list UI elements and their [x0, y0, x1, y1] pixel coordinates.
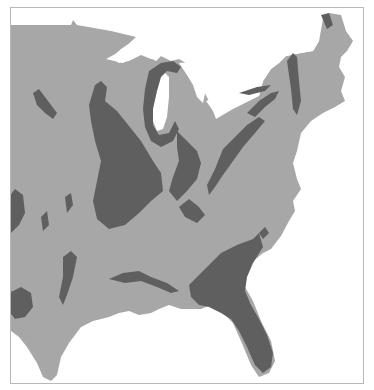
map-frame — [10, 7, 364, 384]
land-area — [11, 13, 353, 381]
eastern-us-map — [11, 8, 364, 384]
